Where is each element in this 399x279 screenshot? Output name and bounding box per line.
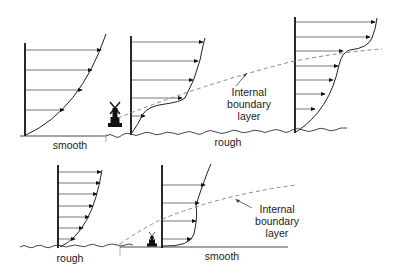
surface-label-rough-top: rough bbox=[215, 136, 242, 148]
ibl-label-top-3: layer bbox=[238, 110, 261, 122]
rough-ground-bottom bbox=[20, 244, 133, 248]
ibl-diagram: Internal boundary layer smooth rough bbox=[0, 0, 399, 279]
surface-label-smooth-bottom: smooth bbox=[205, 250, 240, 262]
ibl-label-top-1: Internal bbox=[231, 86, 266, 98]
ibl-label-top-2: boundary bbox=[227, 98, 272, 110]
profile-smooth-top bbox=[20, 34, 106, 136]
profile-smooth-bottom bbox=[162, 164, 211, 248]
ibl-label-bottom-2: boundary bbox=[255, 215, 300, 227]
ibl-label-bottom-1: Internal bbox=[259, 203, 294, 215]
profile-rough-top-2 bbox=[295, 17, 377, 133]
ibl-label-bottom-3: layer bbox=[266, 227, 289, 239]
profile-rough-bottom bbox=[58, 165, 102, 248]
profile-rough-top-1 bbox=[131, 36, 205, 135]
windmill-icon bbox=[147, 232, 157, 247]
windmill-icon bbox=[108, 102, 122, 127]
surface-label-rough-bottom: rough bbox=[57, 252, 84, 264]
surface-label-smooth-top: smooth bbox=[53, 139, 88, 151]
